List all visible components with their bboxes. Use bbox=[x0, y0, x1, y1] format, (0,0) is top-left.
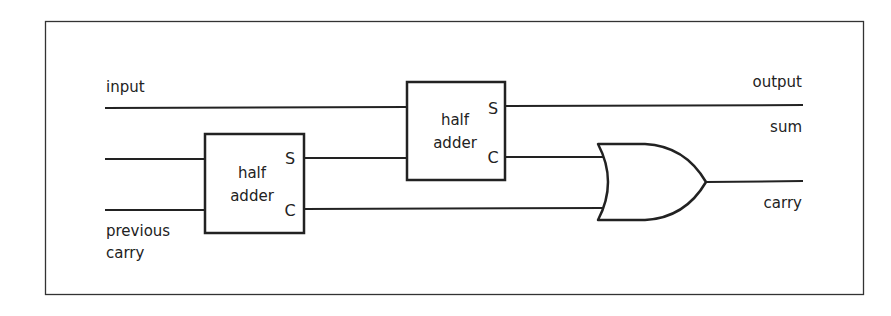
sum-label: sum bbox=[770, 118, 802, 136]
ha1-carry-wire bbox=[304, 208, 604, 209]
half-adder-1-label-line2: adder bbox=[230, 187, 274, 205]
or-gate bbox=[598, 144, 706, 220]
previous-carry-label-line1: previous bbox=[106, 222, 170, 240]
carry-label: carry bbox=[764, 194, 803, 212]
half-adder-1-label-line1: half bbox=[238, 164, 267, 182]
half-adder-2-label-line1: half bbox=[441, 111, 470, 129]
carry-out-wire bbox=[706, 181, 803, 182]
input-wire bbox=[105, 107, 407, 108]
half-adder-2-pin-s: S bbox=[488, 99, 498, 118]
output-sum-wire bbox=[505, 105, 803, 106]
full-adder-diagram: input previous carry half adder S C half… bbox=[0, 0, 891, 316]
half-adder-1-pin-s: S bbox=[285, 149, 295, 168]
input-label: input bbox=[106, 78, 145, 96]
half-adder-2-pin-c: C bbox=[487, 148, 498, 167]
previous-carry-label-line2: carry bbox=[106, 244, 145, 262]
half-adder-2-label-line2: adder bbox=[433, 134, 477, 152]
half-adder-1-pin-c: C bbox=[284, 201, 295, 220]
half-adder-2: half adder S C bbox=[407, 82, 505, 180]
output-label: output bbox=[753, 73, 803, 91]
half-adder-1: half adder S C bbox=[205, 134, 304, 233]
